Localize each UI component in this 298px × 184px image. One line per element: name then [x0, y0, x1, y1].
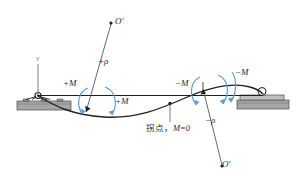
left-support-foot-c [57, 99, 63, 102]
radius-positive-rho [85, 21, 112, 112]
beam-deflection-figure [0, 0, 298, 184]
inflection-note-cn: 拐点， [146, 123, 173, 133]
moment-positive-left-label: +M [63, 79, 77, 88]
radius-positive-label: +ρ [98, 57, 108, 66]
curvature-center-bottom-label: O' [222, 160, 230, 169]
positive-moment-arc-right [105, 87, 115, 115]
positive-moment-arrows [79, 87, 116, 115]
radius-negative-label: −ρ [205, 116, 215, 125]
inflection-note: 拐点，M=0 [146, 124, 190, 133]
moment-negative-right-label: −M [235, 68, 249, 77]
right-roller-support [237, 88, 289, 110]
deflection-axis-label: v [36, 55, 39, 63]
curvature-center-top-dot [109, 21, 112, 24]
rho-negative-line [203, 89, 222, 165]
moment-negative-left-label: −M [175, 79, 189, 88]
elastic-curve [38, 85, 263, 117]
negative-moment-arrows [191, 75, 227, 105]
rho-positive-line [86, 24, 111, 112]
curvature-center-top-label: O' [115, 17, 123, 26]
negative-moment-arc-right [218, 75, 227, 104]
moment-positive-right-label: +M [115, 97, 129, 106]
right-support-ground [237, 100, 289, 109]
inflection-note-eq: M=0 [173, 123, 190, 133]
